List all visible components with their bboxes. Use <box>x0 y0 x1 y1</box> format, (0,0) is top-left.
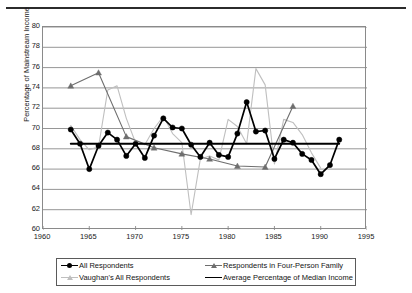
x-tick-label: 1995 <box>351 232 381 241</box>
series-marker-dot <box>133 141 138 146</box>
legend-row: Vaughan's All RespondentsAverage Percent… <box>57 273 357 286</box>
x-tick-label: 1980 <box>212 232 242 241</box>
legend-label: All Respondents <box>79 261 134 270</box>
series-marker-dot <box>309 157 314 162</box>
x-tick-label: 1990 <box>305 232 335 241</box>
series-marker-dot <box>114 137 119 142</box>
chart-figure: Percentage of Mainstream Income 60626466… <box>0 0 412 293</box>
series-marker-dot <box>96 143 101 148</box>
series-marker-triangle <box>290 103 296 108</box>
legend-swatch-triangle-icon <box>205 261 222 270</box>
series-marker-dot <box>77 141 82 146</box>
x-tick-label: 1985 <box>258 232 288 241</box>
series-marker-dot <box>170 125 175 130</box>
chart-legend: All RespondentsRespondents in Four-Perso… <box>56 258 356 286</box>
legend-item[interactable]: Average Percentage of Median Income <box>205 273 353 282</box>
plot-area <box>42 26 366 229</box>
x-tick-label: 1965 <box>73 232 103 241</box>
series-marker-dot <box>263 128 268 133</box>
series-marker-dot <box>337 137 342 142</box>
x-tick-label: 1960 <box>27 232 57 241</box>
series-canvas <box>43 27 367 230</box>
series-marker-dot <box>281 137 286 142</box>
series-marker-dot <box>142 155 147 160</box>
top-divider-rule <box>6 7 406 9</box>
legend-swatch-circle-icon <box>61 261 78 270</box>
series-marker-dot <box>68 127 73 132</box>
y-tick-label: 66 <box>18 164 40 172</box>
x-axis-tick-labels: 19601965197019751980198519901995 <box>42 232 366 244</box>
y-tick-label: 78 <box>18 42 40 50</box>
series-marker-dot <box>300 151 305 156</box>
legend-label: Average Percentage of Median Income <box>223 273 353 282</box>
series-marker-dot <box>179 126 184 131</box>
series-marker-dot <box>124 153 129 158</box>
series-marker-dot <box>244 100 249 105</box>
series-marker-dot <box>87 167 92 172</box>
y-tick-label: 70 <box>18 124 40 132</box>
legend-swatch-none-icon <box>205 273 222 282</box>
y-tick-label: 68 <box>18 144 40 152</box>
series-marker-dot <box>318 172 323 177</box>
series-marker-dot <box>226 154 231 159</box>
series-line <box>71 102 339 174</box>
series-marker-dot <box>189 142 194 147</box>
legend-item[interactable]: Respondents in Four-Person Family <box>205 261 343 270</box>
series-marker-dot <box>216 152 221 157</box>
series-marker-dot <box>105 130 110 135</box>
y-tick-label: 72 <box>18 103 40 111</box>
y-tick-label: 62 <box>18 205 40 213</box>
y-tick-label: 64 <box>18 184 40 192</box>
x-tick-label: 1975 <box>166 232 196 241</box>
series-marker-dot <box>207 140 212 145</box>
series-marker-dot <box>198 154 203 159</box>
legend-label: Respondents in Four-Person Family <box>223 261 343 270</box>
series-marker-triangle <box>96 70 102 75</box>
series-marker-dot <box>151 133 156 138</box>
y-tick-label: 74 <box>18 83 40 91</box>
y-axis-tick-labels: 6062646668707274767880 <box>14 26 40 229</box>
series-marker-triangle <box>68 83 74 88</box>
series-marker-dot <box>327 162 332 167</box>
legend-swatch-triangle-icon <box>61 273 78 282</box>
series-marker-dot <box>253 129 258 134</box>
legend-label: Vaughan's All Respondents <box>79 273 170 282</box>
legend-item[interactable]: Vaughan's All Respondents <box>61 273 170 282</box>
series-1 <box>68 100 342 177</box>
y-tick-label: 80 <box>18 22 40 30</box>
y-tick-label: 76 <box>18 63 40 71</box>
series-marker-dot <box>161 116 166 121</box>
series-marker-dot <box>290 140 295 145</box>
series-marker-triangle <box>123 134 129 139</box>
series-2 <box>68 70 296 170</box>
series-marker-dot <box>272 156 277 161</box>
series-marker-dot <box>235 131 240 136</box>
x-tick-label: 1970 <box>120 232 150 241</box>
legend-item[interactable]: All Respondents <box>61 261 134 270</box>
